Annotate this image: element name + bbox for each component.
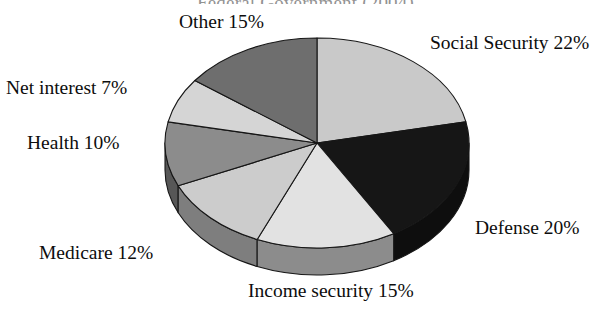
pie-chart-figure: Federal Government (2004) Other 15% Soci… (0, 0, 611, 310)
pie-label-health: Health 10% (27, 133, 120, 153)
pie-label-medicare: Medicare 12% (39, 243, 153, 263)
pie-label-other: Other 15% (179, 12, 264, 32)
pie-label-net-interest: Net interest 7% (6, 78, 127, 98)
pie-label-defense: Defense 20% (475, 218, 580, 238)
pie-label-social-security: Social Security 22% (430, 33, 589, 53)
pie-slices-group (165, 38, 469, 275)
pie-label-income-security: Income security 15% (248, 281, 414, 301)
